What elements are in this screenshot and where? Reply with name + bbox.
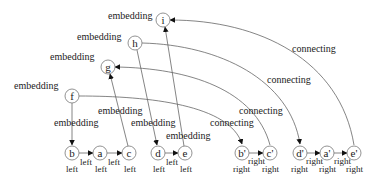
node-b: b [65,146,79,160]
label-h-embedding: embedding [77,31,121,42]
edge-h-to-d [137,50,157,145]
node-i: i [156,13,170,27]
label-f-embedding: embedding [14,80,58,91]
svg-text:d: d [155,147,161,159]
node-e-sublabel: left [180,164,192,174]
svg-text:a: a [98,147,103,159]
label-f-b2-connecting: connecting [210,117,254,128]
label-g-embedding: embedding [50,51,94,62]
label-f-b-embedding: embedding [54,117,98,128]
node-d: d [151,146,165,160]
label-h-d-embedding: embedding [131,117,175,128]
node-d-sublabel: left [153,164,165,174]
label-d-e: left [166,157,178,167]
label-b2-c2: right [248,156,265,166]
node-a-sublabel: left [95,164,107,174]
label-c-g-embedding: embedding [98,105,142,116]
svg-text:b: b [69,147,75,159]
label-e2-i-connecting: connecting [292,43,336,54]
node-c-prime: c' [263,146,277,160]
label-b-a: left [80,157,92,167]
node-c-sublabel: left [124,164,136,174]
node-d-prime: d' [293,146,307,160]
svg-text:a': a' [324,147,331,159]
label-d2-a2: right [306,156,323,166]
svg-text:i: i [161,14,164,26]
node-h: h [128,36,142,50]
svg-text:f: f [70,90,74,102]
edge-h-to-d2 [142,43,300,144]
label-e-i-embedding: embedding [166,130,210,141]
node-c: c [122,146,136,160]
svg-text:d': d' [296,147,304,159]
node-b-prime: b' [235,146,249,160]
label-c2-g-connecting: connecting [239,105,283,116]
label-h-d2-connecting: connecting [267,74,311,85]
svg-text:h: h [132,37,138,49]
svg-text:g: g [105,61,111,73]
svg-text:c': c' [267,147,274,159]
svg-text:e: e [183,147,188,159]
svg-text:e': e' [351,147,358,159]
node-e: e [178,146,192,160]
label-a-c: left [108,157,120,167]
node-f: f [65,89,79,103]
svg-text:c: c [127,147,132,159]
tree-diagram: i h g f b a c d e b' c' d' a' e' left le… [0,0,377,180]
svg-text:b': b' [238,147,246,159]
node-b-sublabel: left [66,164,78,174]
label-i-embedding: embedding [108,10,152,21]
edge-e-to-i [165,27,184,146]
node-a: a [93,146,107,160]
label-a2-e2: right [334,156,351,166]
node-g: g [101,60,115,74]
